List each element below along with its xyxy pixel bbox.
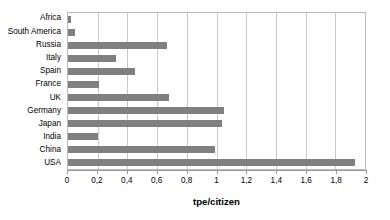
x-tick-mark [246, 170, 247, 174]
bar-row [68, 26, 365, 39]
x-tick-label: 1,4 [271, 177, 282, 185]
bar [68, 159, 355, 166]
x-tick-label: 0,8 [181, 177, 192, 185]
x-tick-label: 1,8 [330, 177, 341, 185]
x-tick-mark [306, 170, 307, 174]
bar-row [68, 65, 365, 78]
bar-row [68, 91, 365, 104]
bar-row [68, 78, 365, 91]
x-tick-mark [217, 170, 218, 174]
x-tick-label: 0,2 [91, 177, 102, 185]
x-tick-mark [336, 170, 337, 174]
bar [68, 107, 224, 114]
bar-row [68, 143, 365, 156]
x-tick-label: 0,4 [121, 177, 132, 185]
bar-row [68, 13, 365, 26]
category-label: India [0, 131, 65, 144]
bar-row [68, 39, 365, 52]
y-axis-category-labels: AfricaSouth AmericaRussiaItalySpainFranc… [0, 12, 65, 170]
category-label: Japan [0, 117, 65, 130]
x-tick-mark [67, 170, 68, 174]
x-tick-mark [97, 170, 98, 174]
bar-chart: AfricaSouth AmericaRussiaItalySpainFranc… [0, 0, 390, 220]
category-label: Germany [0, 104, 65, 117]
category-label: Spain [0, 65, 65, 78]
x-tick-label: 2 [364, 177, 369, 185]
bar-row [68, 52, 365, 65]
category-label: UK [0, 91, 65, 104]
bar [68, 146, 215, 153]
bar [68, 68, 135, 75]
x-tick-mark [157, 170, 158, 174]
category-label: South America [0, 25, 65, 38]
bar [68, 29, 75, 36]
x-axis-tick-labels: 00,20,40,60,811,21,41,61,82 [67, 177, 366, 189]
x-tick-mark [366, 170, 367, 174]
category-label: China [0, 144, 65, 157]
category-label: Italy [0, 52, 65, 65]
bar [68, 42, 167, 49]
category-label: Africa [0, 12, 65, 25]
plot-area [67, 12, 366, 170]
category-label: Russia [0, 38, 65, 51]
bar [68, 16, 71, 23]
bar [68, 133, 98, 140]
bar-row [68, 117, 365, 130]
bar-row [68, 104, 365, 117]
x-tick-label: 1,2 [241, 177, 252, 185]
gridline [365, 13, 366, 169]
x-tick-label: 0 [65, 177, 70, 185]
x-tick-label: 1,6 [300, 177, 311, 185]
x-tick-mark [127, 170, 128, 174]
category-label: USA [0, 157, 65, 170]
x-tick-mark [187, 170, 188, 174]
x-axis-title: tpe/citizen [67, 197, 366, 207]
x-tick-mark [276, 170, 277, 174]
x-tick-label: 1 [214, 177, 219, 185]
bar [68, 94, 169, 101]
bar [68, 55, 116, 62]
bar [68, 120, 222, 127]
category-label: France [0, 78, 65, 91]
bar-row [68, 130, 365, 143]
bar-series [68, 13, 365, 169]
bar-row [68, 156, 365, 169]
x-tick-label: 0,6 [151, 177, 162, 185]
bar [68, 81, 99, 88]
